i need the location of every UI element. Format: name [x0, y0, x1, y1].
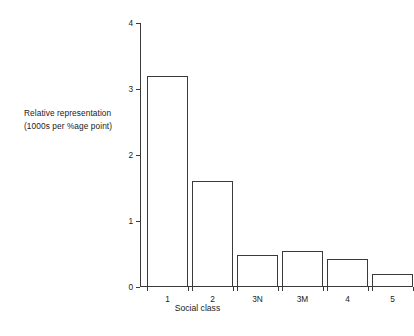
bar: [192, 181, 233, 287]
x-tick-mark: [237, 287, 238, 291]
bar: [147, 76, 188, 287]
y-tick-label: 0: [120, 283, 133, 291]
bar: [372, 274, 413, 287]
x-tick-mark: [233, 287, 234, 291]
y-tick-label: 1: [120, 217, 133, 225]
x-tick-mark: [192, 287, 193, 291]
y-tick-mark: [136, 23, 140, 24]
y-tick-label: 3: [120, 85, 133, 93]
x-tick-mark: [323, 287, 324, 291]
x-axis-title: Social class: [0, 303, 395, 313]
y-axis-line: [140, 23, 141, 287]
y-tick-mark: [136, 221, 140, 222]
x-tick-mark: [372, 287, 373, 291]
x-tick-mark: [147, 287, 148, 291]
x-tick-mark: [327, 287, 328, 291]
bar: [327, 259, 368, 287]
y-axis-label: Relative representation (1000s per %age …: [24, 107, 132, 132]
y-tick-label: 4: [120, 19, 133, 27]
bar: [282, 251, 323, 287]
y-tick-mark: [136, 155, 140, 156]
y-axis-label-line-2: (1000s per %age point): [24, 120, 132, 133]
y-tick-mark: [136, 287, 140, 288]
x-tick-mark: [368, 287, 369, 291]
x-tick-mark: [282, 287, 283, 291]
y-tick-mark: [136, 89, 140, 90]
y-axis-label-line-1: Relative representation: [24, 107, 132, 120]
y-tick-label: 2: [120, 151, 133, 159]
x-tick-mark: [278, 287, 279, 291]
bar: [237, 255, 278, 287]
x-tick-mark: [188, 287, 189, 291]
plot-area: 01234 123N3M45: [140, 23, 390, 287]
